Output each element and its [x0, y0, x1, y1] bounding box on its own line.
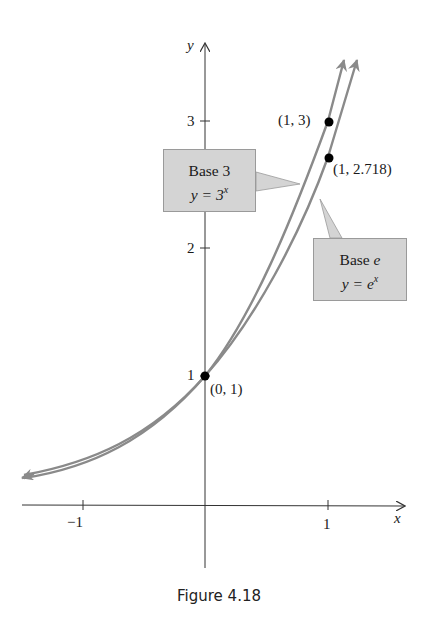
y-axis-label: y: [187, 37, 194, 54]
y-tick-label-2: 2: [187, 240, 195, 257]
basee-equation: y = ex: [314, 269, 406, 293]
base3-equation: y = 3x: [164, 180, 255, 204]
x-tick-label-1: 1: [323, 516, 331, 533]
point-label-1-3: (1, 3): [278, 112, 311, 129]
figure-caption: Figure 4.18: [0, 587, 438, 605]
base3-label-box: Base 3 y = 3x: [163, 149, 256, 212]
basee-callout-pointer: [320, 199, 342, 238]
point-label-1-2718: (1, 2.718): [333, 161, 392, 178]
point-0-1: [201, 372, 210, 381]
exponential-graph: [0, 0, 438, 627]
x-tick-label--1: −1: [67, 514, 83, 531]
y-tick-label-1: 1: [187, 367, 195, 384]
point-label-0-1: (0, 1): [210, 381, 243, 398]
basee-title: Base e: [314, 250, 406, 269]
base3-callout-pointer: [256, 172, 300, 191]
x-axis-label: x: [394, 510, 401, 527]
basee-label-box: Base e y = ex: [313, 238, 407, 301]
y-tick-label-3: 3: [187, 113, 195, 130]
base3-title: Base 3: [164, 161, 255, 180]
point-1-3: [325, 118, 334, 127]
x-axis: [22, 505, 404, 506]
